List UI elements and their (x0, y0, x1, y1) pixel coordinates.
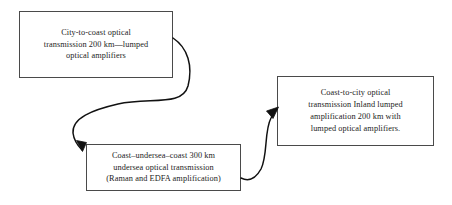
flowchart-diagram: City-to-coast optical transmission 200 k… (0, 0, 452, 205)
arrowhead-city-to-undersea (77, 141, 87, 152)
flow-box-undersea: Coast–undersea–coast 300 km undersea opt… (86, 144, 241, 191)
flow-box-city-to-coast: City-to-coast optical transmission 200 k… (19, 11, 173, 78)
flow-box-undersea-label: Coast–undersea–coast 300 km undersea opt… (93, 150, 234, 185)
connector-undersea-to-coast-city (241, 109, 277, 180)
flow-box-coast-to-city: Coast-to-city optical transmission Inlan… (277, 76, 434, 146)
flow-box-city-to-coast-label: City-to-coast optical transmission 200 k… (26, 27, 166, 62)
flow-box-coast-to-city-label: Coast-to-city optical transmission Inlan… (284, 87, 427, 134)
